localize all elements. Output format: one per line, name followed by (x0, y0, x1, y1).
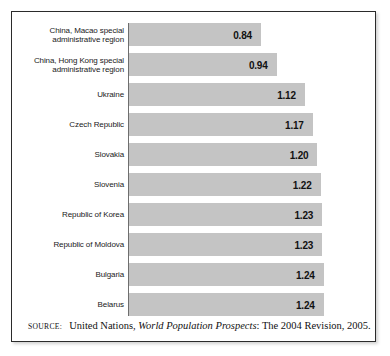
bar-value-label: 1.24 (296, 269, 315, 280)
bar-value-label: 0.84 (233, 29, 252, 40)
bar-category-label: Czech Republic (18, 120, 124, 130)
bar-value-label: 1.22 (293, 179, 312, 190)
bar: 0.84 (129, 23, 261, 46)
bar: 1.17 (129, 113, 313, 136)
bar-row: Slovakia1.20 (12, 143, 375, 166)
figure-panel: China, Macao special administrative regi… (11, 11, 376, 342)
source-suffix: : The 2004 Revision, 2005. (257, 320, 371, 331)
bar-row: China, Macao special administrative regi… (12, 23, 375, 46)
bar: 1.23 (129, 233, 322, 256)
bar-category-label: China, Hong Kong special administrative … (18, 55, 124, 74)
bar-row: Ukraine1.12 (12, 83, 375, 106)
bar-row: Bulgaria1.24 (12, 263, 375, 286)
bar-category-label: Bulgaria (18, 270, 124, 280)
source-label: source: (28, 322, 62, 331)
source-prefix: United Nations, (69, 320, 138, 331)
source-publication-title: World Population Prospects (138, 320, 256, 331)
bar-value-label: 0.94 (249, 59, 268, 70)
bar-row: Republic of Moldova1.23 (12, 233, 375, 256)
bar-category-label: Ukraine (18, 90, 124, 100)
source-note: source:United Nations, World Population … (12, 320, 375, 331)
bar-category-label: Slovenia (18, 180, 124, 190)
bar-value-label: 1.24 (296, 299, 315, 310)
bar: 1.23 (129, 203, 322, 226)
bar: 1.22 (129, 173, 321, 196)
bar-category-label: Belarus (18, 300, 124, 310)
bar-value-label: 1.17 (285, 119, 304, 130)
bar-value-label: 1.23 (294, 209, 313, 220)
bar: 1.24 (129, 293, 324, 316)
bar-category-label: Slovakia (18, 150, 124, 160)
bar: 1.24 (129, 263, 324, 286)
bar: 0.94 (129, 53, 277, 76)
bar-value-label: 1.23 (294, 239, 313, 250)
bar-category-label: Republic of Moldova (18, 240, 124, 250)
bar-chart: China, Macao special administrative regi… (12, 12, 375, 300)
bar-row: Czech Republic1.17 (12, 113, 375, 136)
bar: 1.12 (129, 83, 305, 106)
bar-category-label: China, Macao special administrative regi… (18, 25, 124, 44)
bar-value-label: 1.12 (277, 89, 296, 100)
bar-row: Slovenia1.22 (12, 173, 375, 196)
bar-row: Belarus1.24 (12, 293, 375, 316)
bar-value-label: 1.20 (290, 149, 309, 160)
bar: 1.20 (129, 143, 317, 166)
bar-row: China, Hong Kong special administrative … (12, 53, 375, 76)
bar-category-label: Republic of Korea (18, 210, 124, 220)
bar-row: Republic of Korea1.23 (12, 203, 375, 226)
